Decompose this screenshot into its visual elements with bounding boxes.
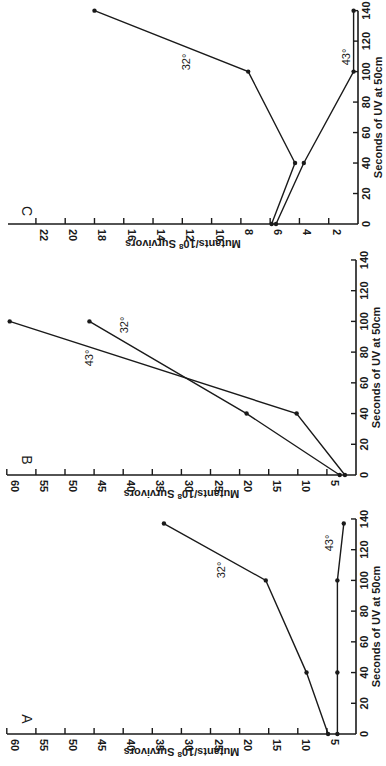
- seconds-tick-label: 80: [360, 96, 372, 108]
- value-tick-label: 2: [331, 229, 343, 235]
- seconds-tick-label: 100: [358, 571, 370, 589]
- data-point: [8, 319, 12, 323]
- seconds-tick-label: 0: [358, 731, 370, 737]
- data-point: [244, 411, 248, 415]
- figure: 246810121416182022020406080100120140Seco…: [0, 0, 386, 766]
- seconds-tick-label: 100: [358, 312, 370, 330]
- data-point: [274, 222, 278, 226]
- series-label: 32°: [215, 562, 227, 579]
- value-tick-label: 55: [38, 739, 50, 751]
- value-tick-label: 22: [38, 229, 50, 241]
- seconds-tick-label: 40: [360, 157, 372, 169]
- series-label: 32°: [180, 54, 192, 71]
- series-line-43: [337, 524, 343, 734]
- value-tick-label: 20: [242, 739, 254, 751]
- seconds-tick-label: 0: [358, 472, 370, 478]
- series-line-32: [89, 321, 339, 475]
- value-tick-label: 45: [96, 739, 108, 751]
- value-tick-label: 15: [271, 480, 283, 492]
- value-tick-label: 15: [271, 739, 283, 751]
- value-tick-label: 60: [9, 739, 21, 751]
- value-tick-label: 50: [67, 480, 79, 492]
- series-label: 43°: [340, 49, 352, 66]
- panel-letter: C: [19, 206, 35, 216]
- panel-c-chart: 246810121416182022020406080100120140Seco…: [8, 1, 384, 251]
- data-point: [246, 69, 250, 73]
- data-point: [92, 8, 96, 12]
- data-point: [293, 161, 297, 165]
- panel-letter: B: [19, 455, 35, 464]
- panel-b-chart: 5101520253035404550556002040608010012014…: [7, 251, 382, 501]
- seconds-tick-label: 80: [358, 605, 370, 617]
- seconds-tick-label: 140: [358, 251, 370, 269]
- data-point: [338, 473, 342, 477]
- value-axis-label: Mutants/108 Survivors: [124, 746, 240, 759]
- series-label: 43°: [83, 350, 95, 367]
- value-tick-label: 10: [300, 739, 312, 751]
- series-line-32: [95, 11, 296, 224]
- data-point: [294, 411, 298, 415]
- series-line-43: [276, 11, 354, 224]
- value-tick-label: 50: [67, 739, 79, 751]
- seconds-tick-label: 60: [358, 377, 370, 389]
- value-axis-label: Mutants/108 Survivors: [125, 238, 241, 251]
- series-label: 43°: [323, 535, 335, 552]
- seconds-tick-label: 120: [358, 541, 370, 559]
- value-tick-label: 4: [301, 229, 313, 236]
- seconds-tick-label: 120: [360, 32, 372, 50]
- data-point: [87, 319, 91, 323]
- seconds-axis-label: Seconds of UV at 50cm: [372, 56, 384, 178]
- seconds-tick-label: 40: [358, 666, 370, 678]
- seconds-tick-label: 20: [360, 187, 372, 199]
- data-point: [326, 732, 330, 736]
- value-tick-label: 60: [9, 480, 21, 492]
- value-tick-label: 20: [242, 480, 254, 492]
- value-tick-label: 45: [96, 480, 108, 492]
- series-line-32: [164, 524, 328, 734]
- seconds-tick-label: 140: [360, 1, 372, 19]
- panel-letter: A: [19, 714, 35, 724]
- value-tick-label: 6: [272, 229, 284, 235]
- seconds-tick-label: 40: [358, 407, 370, 419]
- data-point: [269, 222, 273, 226]
- seconds-axis-label: Seconds of UV at 50cm: [370, 565, 382, 687]
- value-tick-label: 55: [38, 480, 50, 492]
- seconds-tick-label: 60: [358, 636, 370, 648]
- seconds-tick-label: 20: [358, 438, 370, 450]
- series-line-43: [10, 321, 345, 475]
- data-point: [335, 670, 339, 674]
- data-point: [264, 578, 268, 582]
- value-axis-label: Mutants/108 Survivors: [124, 488, 240, 501]
- data-point: [304, 670, 308, 674]
- seconds-tick-label: 0: [360, 221, 372, 227]
- seconds-axis-label: Seconds of UV at 50cm: [370, 306, 382, 428]
- value-tick-label: 18: [96, 229, 108, 241]
- seconds-tick-label: 140: [358, 510, 370, 528]
- seconds-tick-label: 20: [358, 697, 370, 709]
- series-label: 32°: [118, 317, 130, 334]
- seconds-tick-label: 80: [358, 346, 370, 358]
- seconds-tick-label: 120: [358, 282, 370, 300]
- data-point: [335, 732, 339, 736]
- data-point: [351, 69, 355, 73]
- value-tick-label: 5: [329, 739, 341, 745]
- data-point: [351, 8, 355, 12]
- value-tick-label: 8: [243, 229, 255, 235]
- data-point: [342, 521, 346, 525]
- data-point: [335, 578, 339, 582]
- seconds-tick-label: 60: [360, 126, 372, 138]
- seconds-tick-label: 100: [360, 62, 372, 80]
- value-tick-label: 20: [67, 229, 79, 241]
- data-point: [162, 521, 166, 525]
- data-point: [302, 161, 306, 165]
- data-point: [343, 473, 347, 477]
- value-tick-label: 5: [329, 480, 341, 486]
- value-tick-label: 10: [300, 480, 312, 492]
